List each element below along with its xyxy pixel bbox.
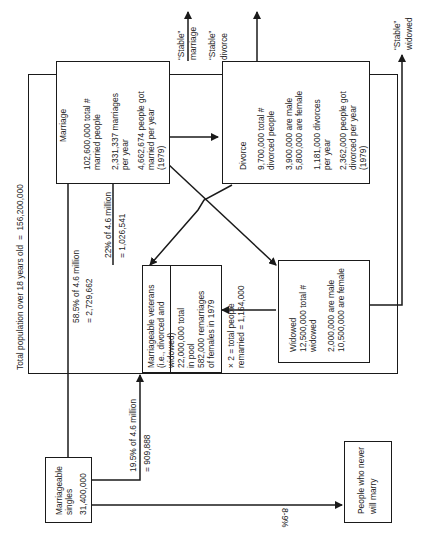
never-marry-line: will marry	[368, 479, 378, 514]
veterans-title: Marriageable veterans	[146, 285, 156, 368]
total-population-label: Total population over 18 years old = 156…	[15, 184, 25, 370]
veterans-line: 22,000,000 total	[176, 308, 186, 368]
flow-singles-to-veterans-value: = 909,888	[142, 435, 152, 473]
divorce-line: 2,362,000 people got	[338, 91, 348, 170]
divorce-line: 9,700,000 total #	[256, 108, 266, 170]
marriage-line: 102,600,000 total #	[82, 98, 92, 170]
divorce-line: divorced people	[266, 111, 276, 170]
singles-line: singles	[64, 489, 74, 515]
stable-marriage-label-2: marriage	[188, 27, 198, 60]
divorce-line: divorced per year	[348, 105, 358, 170]
widowed-line: widowed	[308, 319, 318, 352]
veterans-line: of females in 1979	[206, 300, 216, 368]
marriage-line: married people	[92, 114, 102, 170]
veterans-line: × 2 = total people	[226, 303, 236, 368]
marriage-line: 4,662,674 people got	[136, 91, 146, 170]
stable-widowed-label-2: widowed	[404, 17, 414, 50]
divorce-line: per year	[322, 139, 332, 170]
veterans-line: remarried = 1,164,000	[236, 285, 246, 368]
widowed-title: Widowed	[288, 318, 298, 352]
veterans-line: (i.e., divorced and	[156, 301, 166, 368]
marriage-line: married per year	[146, 109, 156, 170]
flow-singles-to-never-pct: 8-9%	[280, 508, 290, 528]
singles-line: 31,400,000	[78, 473, 88, 515]
divorce-title: Divorce	[238, 142, 248, 170]
flow-veterans-to-marriage-pct: 22% of 4.6 million	[103, 192, 113, 258]
stable-marriage-label-1: “Stable”	[176, 31, 186, 60]
stable-widowed-label-1: “Stable”	[392, 21, 402, 50]
flow-singles-to-marriage-pct: 58.5% of 4.6 million	[71, 250, 81, 323]
widowed-line: 10,500,000 are female	[336, 268, 346, 352]
veterans-line: 582,000 remarriages	[196, 291, 206, 368]
veterans-line: widowed)	[166, 333, 176, 368]
divorce-line: 1,181,000 divorces	[312, 99, 322, 170]
marriage-title: Marriage	[58, 109, 68, 142]
stable-divorce-label-1: “Stable”	[207, 31, 217, 60]
stable-divorce-label-2: divorce	[219, 33, 229, 60]
divorce-line: (1979)	[358, 146, 368, 170]
flow-singles-to-veterans-pct: 19.5% of 4.6 million	[128, 399, 138, 472]
widowed-line: 12,500,000 total #	[298, 285, 308, 352]
marriage-line: (1979)	[156, 146, 166, 170]
flow-singles-to-marriage-value: = 2,729,662	[84, 279, 94, 323]
marriage-line: per year	[120, 139, 130, 170]
divorce-line: 5,800,000 are female	[294, 91, 304, 170]
widowed-line: 2,000,000 are male	[326, 280, 336, 352]
divorce-line: 3,900,000 are male	[284, 98, 294, 170]
never-marry-line: People who never	[356, 447, 366, 514]
singles-line: Marriageable	[54, 466, 64, 515]
veterans-line: in pool	[186, 343, 196, 368]
flow-veterans-to-marriage-value: = 1,026,541	[117, 214, 127, 258]
marriage-line: 2,331,337 marriages	[110, 93, 120, 170]
